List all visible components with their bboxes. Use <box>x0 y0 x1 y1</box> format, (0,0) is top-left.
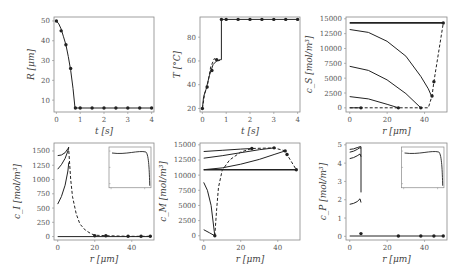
y-tick-label: 0 <box>192 232 196 240</box>
x-tick-label: 20 <box>90 244 99 252</box>
data-marker <box>210 69 213 72</box>
data-marker <box>397 106 400 109</box>
series-t5 <box>204 230 215 236</box>
y-tick-label: 1 <box>338 215 342 223</box>
data-marker <box>224 18 227 21</box>
y-tick-label: 20 <box>187 105 196 113</box>
data-marker <box>359 232 362 235</box>
series-t1 <box>204 151 286 170</box>
x-axis-label: r [μm] <box>382 254 411 264</box>
x-axis-label: t [s] <box>241 126 260 136</box>
x-tick-label: 0 <box>55 244 59 252</box>
y-tick-label: 12500 <box>320 30 342 38</box>
data-marker <box>248 18 251 21</box>
plot-area <box>55 19 154 109</box>
x-tick-label: 40 <box>273 244 282 252</box>
x-tick-label: 0 <box>348 244 352 252</box>
series-t3 <box>58 162 69 204</box>
data-marker <box>419 234 422 237</box>
panel-radius: 012341020304050t [s]R [μm] <box>26 17 154 136</box>
data-marker <box>359 106 362 109</box>
data-marker <box>272 146 275 149</box>
data-marker <box>284 18 287 21</box>
panel-temperature: 0123420406080t [s]T [°C] <box>172 17 300 136</box>
x-tick-label: 40 <box>420 116 429 124</box>
data-marker <box>215 58 218 61</box>
panel-c-i: 020400250500750100012501500r [μm]c_I [mo… <box>12 143 154 264</box>
y-tick-label: 12500 <box>174 156 196 164</box>
y-tick-label: 10 <box>41 97 50 105</box>
data-marker <box>150 106 153 109</box>
plot-area <box>204 146 298 237</box>
y-tick-label: 50 <box>41 17 50 25</box>
series-t3 <box>350 97 399 108</box>
series-t2 <box>58 148 69 170</box>
y-axis-label: R [μm] <box>26 48 36 81</box>
y-tick-label: 1500 <box>32 147 50 155</box>
data-marker <box>149 235 152 238</box>
plot-area <box>201 18 300 110</box>
y-tick-label: 2500 <box>324 90 342 98</box>
data-marker <box>138 106 141 109</box>
y-tick-label: 750 <box>37 190 50 198</box>
y-tick-label: 7500 <box>324 60 342 68</box>
y-axis-label: T [°C] <box>172 50 182 78</box>
panel-c-p: 02040012345r [μm]c_P [mol/m³] <box>318 141 447 264</box>
data-marker <box>126 235 129 238</box>
data-marker <box>93 234 96 237</box>
y-tick-label: 15000 <box>174 141 196 149</box>
series-t2 <box>350 66 421 108</box>
x-tick-label: 0 <box>200 116 204 124</box>
y-tick-label: 0 <box>46 233 50 241</box>
y-tick-label: 20 <box>41 77 50 85</box>
x-tick-label: 2 <box>248 116 252 124</box>
y-tick-label: 80 <box>187 34 196 42</box>
data-marker <box>442 234 445 237</box>
y-tick-label: 40 <box>41 37 50 45</box>
data-marker <box>55 19 58 22</box>
y-tick-label: 2 <box>338 196 342 204</box>
panel-c-m: 020400250050007500100001250015000r [μm]c… <box>158 141 300 264</box>
y-tick-label: 0 <box>338 104 342 112</box>
axes-frame <box>200 17 300 112</box>
data-marker <box>139 235 142 238</box>
series-solid <box>202 19 297 108</box>
y-axis-label: c_P [mol/m³] <box>318 162 329 220</box>
y-tick-label: 10000 <box>320 45 342 53</box>
y-tick-label: 500 <box>37 205 50 213</box>
y-tick-label: 30 <box>41 57 50 65</box>
y-tick-label: 5000 <box>324 75 342 83</box>
x-axis-label: r [μm] <box>236 254 265 264</box>
data-marker <box>126 106 129 109</box>
x-axis-label: t [s] <box>95 126 114 136</box>
y-axis-label: c_S [mol/m³] <box>304 35 315 93</box>
panel-c-s: 020400250050007500100001250015000r [μm]c… <box>304 15 447 136</box>
series-t1 <box>350 30 432 98</box>
data-marker <box>272 18 275 21</box>
y-tick-label: 7500 <box>178 187 196 195</box>
data-marker <box>114 106 117 109</box>
x-tick-label: 20 <box>383 116 392 124</box>
x-axis-label: r [μm] <box>90 254 119 264</box>
x-tick-label: 2 <box>102 116 106 124</box>
data-marker <box>430 94 433 97</box>
y-tick-label: 2500 <box>178 217 196 225</box>
data-marker <box>250 147 253 150</box>
series-surface <box>215 148 296 236</box>
data-marker <box>201 107 204 110</box>
data-marker <box>102 106 105 109</box>
series-t4 <box>350 199 361 205</box>
data-marker <box>69 67 72 70</box>
y-tick-label: 60 <box>187 57 196 65</box>
data-marker <box>432 80 435 83</box>
data-marker <box>90 106 93 109</box>
data-marker <box>104 234 107 237</box>
x-tick-label: 40 <box>420 244 429 252</box>
y-tick-label: 10000 <box>174 172 196 180</box>
data-marker <box>260 18 263 21</box>
data-marker <box>442 21 445 24</box>
y-tick-label: 15000 <box>320 15 342 23</box>
y-tick-label: 3 <box>338 178 342 186</box>
x-tick-label: 4 <box>149 116 154 124</box>
x-tick-label: 0 <box>348 116 352 124</box>
